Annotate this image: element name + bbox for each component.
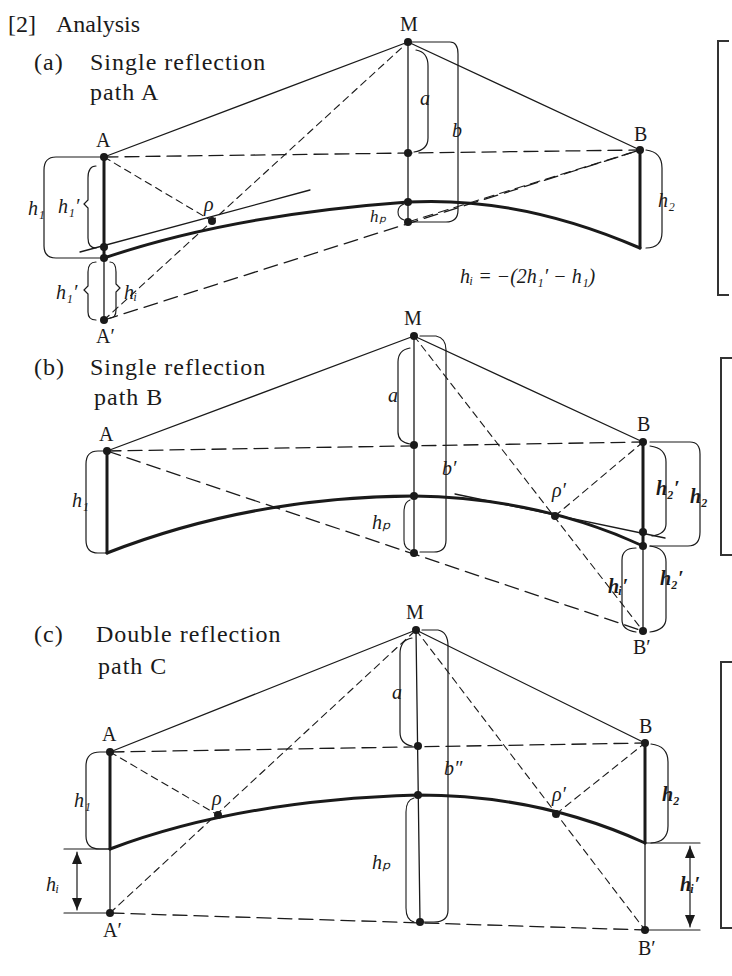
dim-h1: h₁ <box>28 198 45 218</box>
point-m: M <box>404 308 422 328</box>
dim-hi: hᵢ <box>124 282 137 302</box>
dim-b-double-prime: b″ <box>444 758 462 778</box>
point-a-prime: A′ <box>96 326 115 346</box>
dim-hi: hᵢ <box>46 874 59 894</box>
point-a-prime: A′ <box>103 920 122 940</box>
panel-b-subtitle: path B <box>94 385 163 409</box>
point-rho: ρ <box>204 194 214 214</box>
panel-a-tag: (a) <box>34 50 64 74</box>
panel-a-subtitle: path A <box>90 80 159 104</box>
dim-h1-prime-top: h₁′ <box>58 196 79 216</box>
dim-b-prime: b′ <box>442 458 456 478</box>
dim-a: a <box>388 385 398 405</box>
dim-hp: hₚ <box>370 208 386 225</box>
dim-hp: hₚ <box>372 852 391 872</box>
dim-h2-prime-bottom: h₂′ <box>660 568 684 588</box>
dim-h2: h₂ <box>662 784 680 804</box>
point-b: B <box>637 414 650 434</box>
section-number: [2] <box>8 12 36 36</box>
dim-h1: h₁ <box>74 790 91 810</box>
dim-h1-prime-bottom: h₁′ <box>56 282 77 302</box>
panel-b-title: Single reflection <box>90 355 266 379</box>
section-title: Analysis <box>56 12 140 36</box>
dim-hp: hₚ <box>372 512 391 532</box>
point-b: B <box>639 716 652 736</box>
panel-c-title: Double reflection <box>96 622 282 646</box>
dim-h2-prime-top: h₂′ <box>656 478 680 498</box>
panel-a-title: Single reflection <box>90 50 266 74</box>
panel-c-tag: (c) <box>34 622 64 646</box>
dim-b: b <box>452 120 462 140</box>
point-a: A <box>99 424 113 444</box>
dim-a: a <box>420 88 430 108</box>
point-b-prime: B′ <box>633 637 651 657</box>
side-box-c <box>720 661 732 929</box>
point-a: A <box>96 130 110 150</box>
dim-a: a <box>392 682 402 702</box>
point-b-prime: B′ <box>638 938 656 958</box>
dim-h2: h₂ <box>658 190 675 210</box>
point-rho: ρ <box>212 788 222 808</box>
dim-h2: h₂ <box>690 486 708 506</box>
point-m: M <box>400 14 418 34</box>
point-m: M <box>406 602 424 622</box>
point-a: A <box>102 724 116 744</box>
panel-b-tag: (b) <box>34 355 65 379</box>
point-rho-prime: ρ′ <box>552 784 566 804</box>
dim-hi-prime: hᵢ′ <box>608 576 628 596</box>
point-b: B <box>634 124 647 144</box>
image-height-equation: hᵢ = −(2h₁′ − h₁) <box>460 266 595 286</box>
dim-hi-prime: hᵢ′ <box>680 874 700 894</box>
panel-c-subtitle: path C <box>98 654 167 678</box>
side-box-a <box>717 40 729 296</box>
dim-h1: h₁ <box>72 490 89 510</box>
point-rho-prime: ρ′ <box>552 480 566 500</box>
side-box-b <box>720 357 732 556</box>
